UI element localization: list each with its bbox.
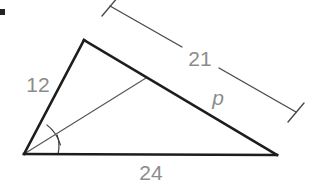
angle-arc-lower xyxy=(57,135,59,155)
label-side-left: 12 xyxy=(26,74,49,95)
triangle-outline xyxy=(24,40,277,155)
dimension-line-21-right-segment xyxy=(219,68,296,112)
triangle-side-left xyxy=(24,40,84,154)
triangle-side-hypotenuse xyxy=(84,40,277,155)
dimension-tick-end-icon xyxy=(288,103,304,122)
angle-bisector-arcs xyxy=(47,125,61,155)
dimension-tick-start-icon xyxy=(102,0,118,16)
label-side-base: 24 xyxy=(139,162,162,183)
label-segment-p: p xyxy=(212,87,224,108)
triangle-side-base xyxy=(24,154,277,155)
geometry-figure: 12 21 p 24 xyxy=(0,0,318,191)
dimension-line-21-left-segment xyxy=(110,6,182,47)
label-dimension-top: 21 xyxy=(188,48,211,69)
